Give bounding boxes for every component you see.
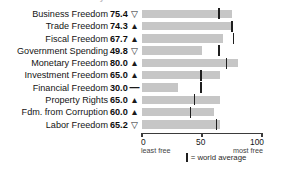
chart-row: Business Freedom 75.4 ▽ [0,8,282,20]
category-plot [142,45,262,57]
category-plot [142,82,262,94]
world-average-marker [190,107,192,118]
value-bar [142,71,220,79]
legend-world-average-label: = world average [191,153,247,162]
axis-caption-least-free: least free [141,147,171,155]
world-average-marker [218,8,220,19]
category-plot [142,57,262,69]
world-average-marker [231,21,233,32]
category-label: Investment Freedom [25,69,108,81]
trend-down-icon: ▽ [129,119,140,131]
chart-row: Labor Freedom 65.2 ▽ [0,119,282,131]
legend-world-average-marker-icon [186,153,188,162]
world-average-marker [233,33,235,44]
world-average-marker [216,119,218,130]
trend-flat-icon: — [129,82,140,94]
category-label: Fiscal Freedom [45,33,108,45]
category-plot [142,94,262,106]
trend-down-icon: ▽ [129,8,140,20]
trend-down-icon: ▽ [129,45,140,57]
x-axis: 0 50 100 least free most free [142,133,262,134]
category-label: Financial Freedom [33,82,108,94]
category-plot [142,106,262,118]
chart-row: Government Spending 49.8 ▽ [0,45,282,57]
axis-tick-label-mid: 50 [196,138,205,147]
trend-up-icon: ▲ [129,20,140,32]
chart-rows: Business Freedom 75.4 ▽ Trade Freedom 74… [0,8,282,131]
value-bar [142,96,220,104]
world-average-marker [194,94,196,105]
value-bar [142,34,223,42]
chart-row: Fiscal Freedom 67.7 ▲ [0,33,282,45]
category-plot [142,8,262,20]
chart-row: Investment Freedom 65.0 ▲ [0,69,282,81]
category-label: Labor Freedom [46,119,108,131]
category-label: Monetary Freedom [31,57,108,69]
chart-row: Monetary Freedom 80.0 ▲ [0,57,282,69]
economic-freedom-profile-chart: Country's Economic Freedom Profile Busin… [0,0,282,169]
trend-up-icon: ▲ [129,69,140,81]
value-bar [142,59,238,67]
category-plot [142,119,262,131]
chart-legend: = world average [186,152,246,163]
world-average-marker [218,45,220,56]
category-plot [142,69,262,81]
chart-title: Country's Economic Freedom Profile [60,0,230,2]
value-bar [142,83,178,91]
chart-row: Fdm. from Corruption 60.0 ▲ [0,106,282,118]
chart-row: Financial Freedom 30.0 — [0,82,282,94]
trend-up-icon: ▲ [129,106,140,118]
value-bar [142,46,202,54]
world-average-marker [200,70,202,81]
category-plot [142,20,262,32]
category-label: Property Rights [45,94,108,106]
trend-up-icon: ▲ [129,33,140,45]
value-bar [142,120,220,128]
category-label: Business Freedom [32,8,108,20]
world-average-marker [226,58,228,69]
category-label: Fdm. from Corruption [22,106,108,118]
trend-up-icon: ▲ [129,57,140,69]
trend-up-icon: ▲ [129,94,140,106]
category-plot [142,33,262,45]
chart-row: Trade Freedom 74.3 ▲ [0,20,282,32]
value-bar [142,22,231,30]
world-average-marker [200,82,202,93]
category-label: Government Spending [17,45,108,57]
value-bar [142,108,214,116]
category-label: Trade Freedom [46,20,108,32]
chart-row: Property Rights 65.0 ▲ [0,94,282,106]
